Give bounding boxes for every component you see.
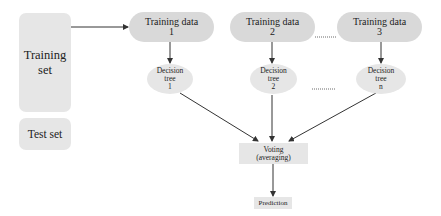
decision-tree-n: Decision tree n: [356, 64, 406, 94]
decision-tree-1: Decision tree 1: [147, 64, 193, 94]
decision-tree-2: Decision tree 2: [250, 64, 297, 94]
prediction-box: Prediction: [254, 197, 292, 209]
training-data-2: Training data 2: [230, 12, 315, 42]
voting-box: Voting (averaging): [239, 143, 308, 164]
training-set-box: Training set: [19, 13, 71, 112]
edge-treen-voting: [289, 93, 376, 141]
test-set-box: Test set: [19, 118, 71, 150]
training-data-1: Training data 1: [129, 12, 214, 42]
training-data-3: Training data 3: [337, 12, 422, 42]
edge-tree1-voting: [180, 93, 258, 141]
